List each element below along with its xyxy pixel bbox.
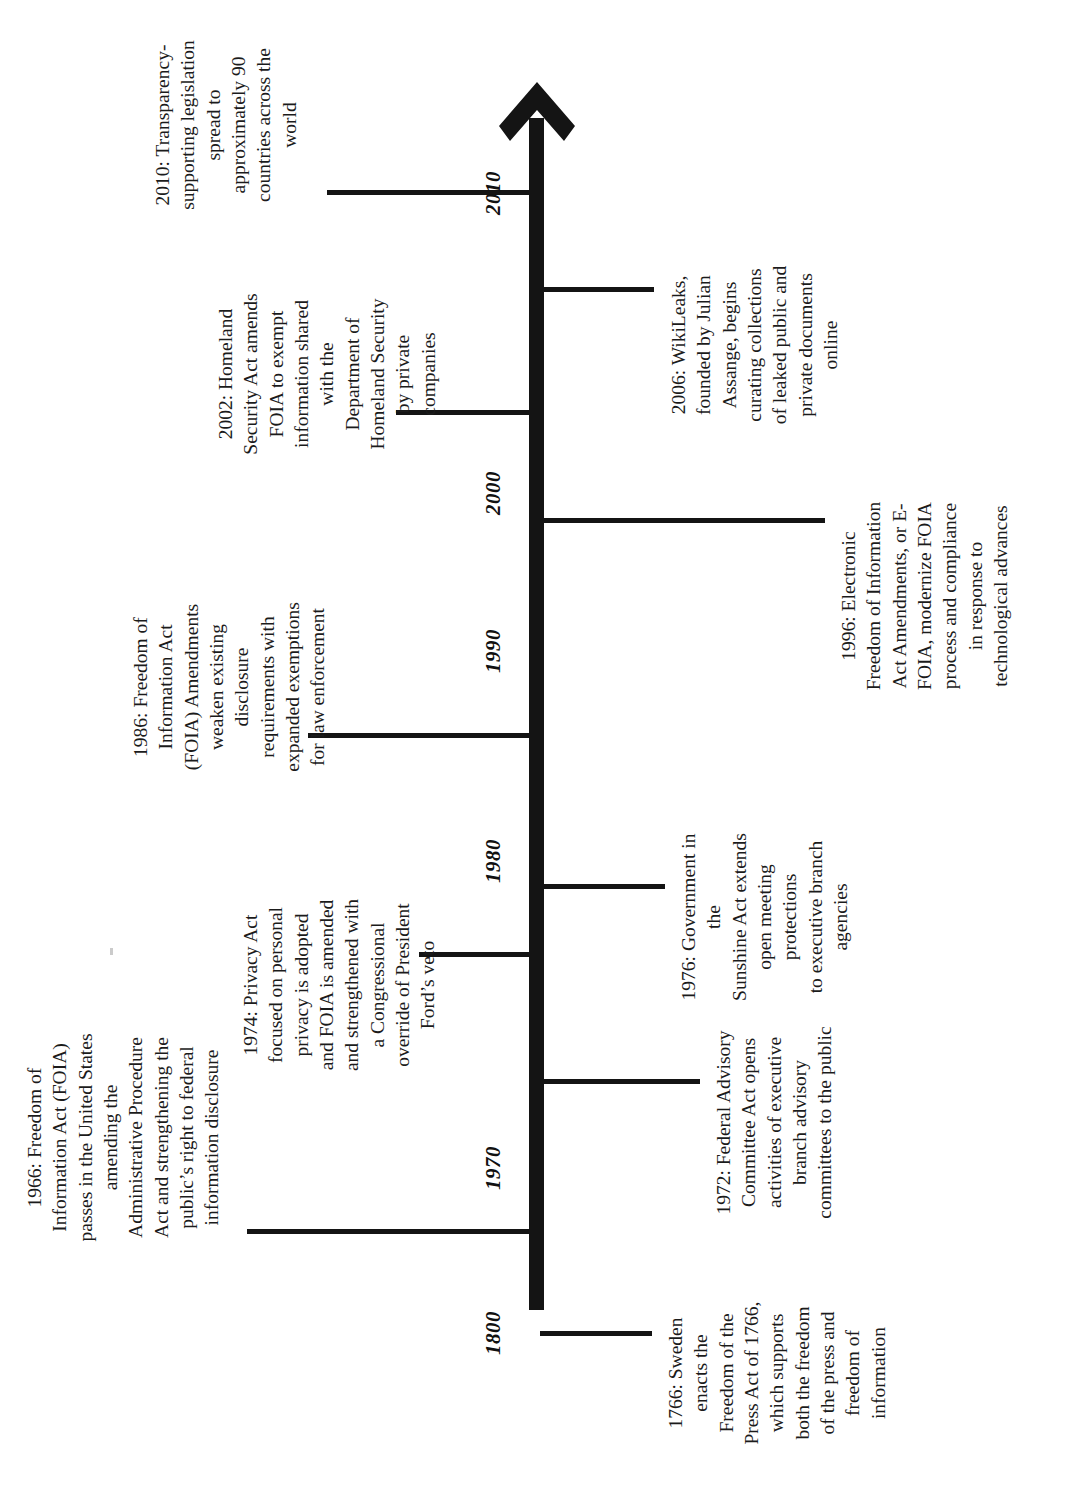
- event-label-1996: 1996: Electronic Freedom of Information …: [836, 472, 1013, 720]
- event-text-line: Administrative Procedure: [123, 1011, 148, 1264]
- scan-speck: [110, 948, 113, 955]
- event-text-line: which supports: [764, 1281, 789, 1465]
- event-text-line: 1976: Government in the: [676, 824, 727, 1010]
- event-text-line: activities of executive: [762, 1025, 787, 1220]
- event-text-line: requirements with: [255, 574, 280, 800]
- event-label-1976: 1976: Government in the Sunshine Act ext…: [676, 824, 853, 1010]
- event-text-line: privacy is adopted: [289, 862, 314, 1108]
- event-text-line: information shared: [289, 258, 314, 490]
- event-text-line: passes in the United States: [73, 1011, 98, 1264]
- axis-tick-1990: 1990: [481, 629, 506, 673]
- event-text-line: 2006: WikiLeaks,: [666, 220, 691, 470]
- connector-1996: [540, 518, 825, 523]
- timeline-arrow-head-icon: [496, 82, 578, 144]
- event-text-line: of the press and: [815, 1281, 840, 1465]
- timeline-diagram: 2010 2000 1990 1980 1970 1800 2010: Tran…: [0, 0, 1069, 1489]
- axis-tick-2010: 2010: [481, 171, 506, 215]
- axis-tick-1980: 1980: [481, 839, 506, 883]
- event-text-line: 1974: Privacy Act: [238, 862, 263, 1108]
- event-text-line: (FOIA) Amendments: [179, 574, 204, 800]
- event-text-line: online: [818, 220, 843, 470]
- event-text-line: Freedom of Information: [861, 472, 886, 720]
- event-label-2010: 2010: Transparency- supporting legislati…: [150, 0, 302, 250]
- timeline-axis-shaft: [529, 118, 544, 1310]
- event-label-1766: 1766: Sweden enacts the Freedom of the P…: [663, 1281, 891, 1465]
- event-text-line: enacts the: [688, 1281, 713, 1465]
- event-text-line: both the freedom: [790, 1281, 815, 1465]
- connector-1976: [540, 884, 665, 889]
- event-label-2006: 2006: WikiLeaks, founded by Julian Assan…: [666, 220, 843, 470]
- connector-2006: [540, 287, 654, 292]
- event-text-line: agencies: [828, 824, 853, 1010]
- event-text-line: weaken existing: [204, 574, 229, 800]
- event-text-line: private documents: [793, 220, 818, 470]
- event-text-line: founded by Julian: [691, 220, 716, 470]
- event-text-line: in response to: [963, 472, 988, 720]
- event-text-line: Department of: [340, 258, 365, 490]
- event-text-line: Freedom of the: [714, 1281, 739, 1465]
- event-text-line: information: [866, 1281, 891, 1465]
- event-text-line: Ford’s veto: [415, 862, 440, 1108]
- event-text-line: open meeting protections: [752, 824, 803, 1010]
- connector-1972: [540, 1079, 700, 1084]
- event-text-line: Act Amendments, or E-: [887, 472, 912, 720]
- axis-tick-1800: 1800: [481, 1311, 506, 1355]
- event-text-line: focused on personal: [263, 862, 288, 1108]
- event-text-line: Information Act: [153, 574, 178, 800]
- event-text-line: 2002: Homeland: [213, 258, 238, 490]
- event-text-line: amending the: [98, 1011, 123, 1264]
- event-text-line: FOIA, modernize FOIA: [912, 472, 937, 720]
- event-text-line: 1996: Electronic: [836, 472, 861, 720]
- event-text-line: committees to the public: [812, 1025, 837, 1220]
- connector-1966: [247, 1229, 533, 1234]
- event-text-line: Security Act amends: [238, 258, 263, 490]
- event-label-1974: 1974: Privacy Act focused on personal pr…: [238, 862, 441, 1108]
- event-label-1986: 1986: Freedom of Information Act (FOIA) …: [128, 574, 331, 800]
- event-text-line: 1766: Sweden: [663, 1281, 688, 1465]
- event-text-line: Information Act (FOIA): [47, 1011, 72, 1264]
- event-text-line: public’s right to federal: [174, 1011, 199, 1264]
- event-text-line: freedom of: [840, 1281, 865, 1465]
- event-text-line: countries across the: [251, 0, 276, 250]
- event-text-line: and strengthened with: [339, 862, 364, 1108]
- axis-tick-2000: 2000: [481, 471, 506, 515]
- event-text-line: to executive branch: [803, 824, 828, 1010]
- event-text-line: process and compliance: [937, 472, 962, 720]
- event-text-line: approximately 90: [226, 0, 251, 250]
- event-text-line: 1966: Freedom of: [22, 1011, 47, 1264]
- event-text-line: technological advances: [988, 472, 1013, 720]
- event-text-line: branch advisory: [787, 1025, 812, 1220]
- event-text-line: of leaked public and: [767, 220, 792, 470]
- event-text-line: Assange, begins: [717, 220, 742, 470]
- event-text-line: Homeland Security: [365, 258, 390, 490]
- event-text-line: a Congressional: [365, 862, 390, 1108]
- event-label-2002: 2002: Homeland Security Act amends FOIA …: [213, 258, 441, 490]
- event-text-line: companies: [416, 258, 441, 490]
- event-text-line: with the: [314, 258, 339, 490]
- event-label-1972: 1972: Federal Advisory Committee Act ope…: [711, 1025, 838, 1220]
- event-text-line: world: [277, 0, 302, 250]
- event-text-line: override of President: [390, 862, 415, 1108]
- connector-1986: [308, 733, 533, 738]
- event-text-line: 1986: Freedom of: [128, 574, 153, 800]
- event-text-line: Sunshine Act extends: [727, 824, 752, 1010]
- event-label-1966: 1966: Freedom of Information Act (FOIA) …: [22, 1011, 225, 1264]
- event-text-line: FOIA to exempt: [264, 258, 289, 490]
- event-text-line: supporting legislation: [175, 0, 200, 250]
- event-text-line: spread to: [201, 0, 226, 250]
- event-text-line: and FOIA is amended: [314, 862, 339, 1108]
- event-text-line: disclosure: [229, 574, 254, 800]
- event-text-line: expanded exemptions: [280, 574, 305, 800]
- event-text-line: Press Act of 1766,: [739, 1281, 764, 1465]
- event-text-line: for law enforcement: [305, 574, 330, 800]
- connector-1766: [540, 1331, 652, 1336]
- event-text-line: Committee Act opens: [736, 1025, 761, 1220]
- event-text-line: 1972: Federal Advisory: [711, 1025, 736, 1220]
- event-text-line: Act and strengthening the: [149, 1011, 174, 1264]
- axis-tick-1970: 1970: [481, 1146, 506, 1190]
- event-text-line: by private: [390, 258, 415, 490]
- event-text-line: 2010: Transparency-: [150, 0, 175, 250]
- event-text-line: information disclosure: [199, 1011, 224, 1264]
- event-text-line: curating collections: [742, 220, 767, 470]
